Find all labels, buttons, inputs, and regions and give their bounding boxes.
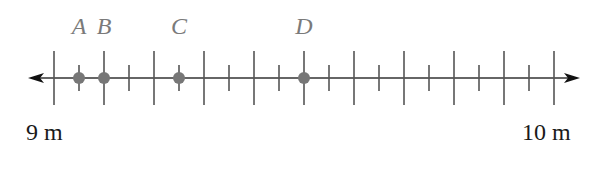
number-line-diagram: ABCD 9 m 10 m	[0, 0, 597, 169]
start-label: 9 m	[26, 119, 63, 145]
point-c-label: C	[171, 13, 188, 39]
point-c-marker	[173, 72, 185, 84]
point-b-marker	[98, 72, 110, 84]
point-b-label: B	[97, 13, 112, 39]
point-d-label: D	[294, 13, 312, 39]
end-label: 10 m	[522, 119, 571, 145]
points: ABCD	[70, 13, 313, 84]
point-a-marker	[73, 72, 85, 84]
point-d-marker	[298, 72, 310, 84]
point-a-label: A	[70, 13, 87, 39]
